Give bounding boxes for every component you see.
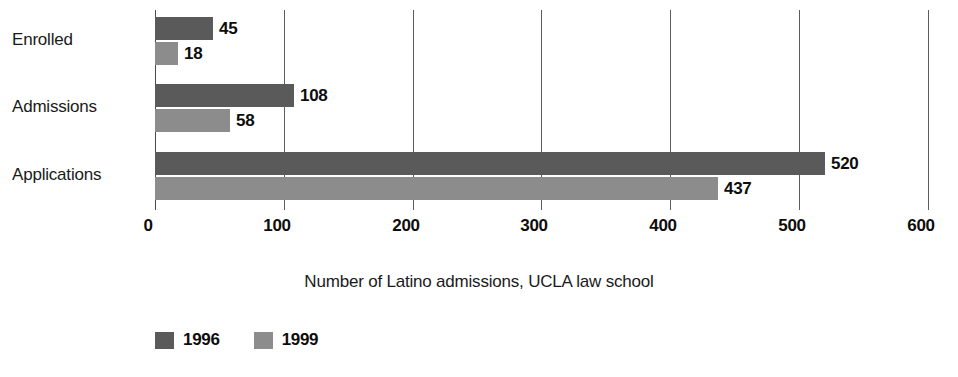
x-axis-title: Number of Latino admissions, UCLA law sc… — [0, 272, 958, 292]
bar-value-enrolled-1999: 18 — [184, 42, 202, 65]
bar-value-admissions-1996: 108 — [300, 84, 327, 107]
tick-label-200: 200 — [392, 216, 419, 236]
bar-chart: Enrolled Admissions Applications 45 18 1… — [0, 0, 958, 377]
category-label-admissions: Admissions — [12, 97, 152, 117]
legend-item-1996: 1996 — [155, 330, 220, 350]
bar-enrolled-1996 — [155, 17, 213, 40]
tick-label-0: 0 — [143, 216, 152, 236]
bar-admissions-1999 — [155, 109, 230, 132]
chart-legend: 1996 1999 — [155, 330, 318, 350]
bar-value-admissions-1999: 58 — [236, 109, 254, 132]
category-label-applications: Applications — [12, 165, 152, 185]
gridline-600 — [928, 10, 929, 210]
category-label-enrolled: Enrolled — [12, 30, 152, 50]
bar-value-applications-1999: 437 — [724, 177, 751, 200]
tick-label-100: 100 — [263, 216, 290, 236]
bar-admissions-1996 — [155, 84, 294, 107]
gridline-500 — [799, 10, 800, 210]
bar-applications-1996 — [155, 152, 825, 175]
legend-label-1999: 1999 — [282, 330, 319, 350]
legend-item-1999: 1999 — [254, 330, 319, 350]
bar-value-enrolled-1996: 45 — [219, 17, 237, 40]
legend-swatch-icon-1999 — [254, 332, 273, 349]
category-axis-labels: Enrolled Admissions Applications — [12, 10, 152, 210]
legend-swatch-icon-1996 — [155, 332, 174, 349]
tick-label-500: 500 — [778, 216, 805, 236]
legend-label-1996: 1996 — [183, 330, 220, 350]
tick-label-400: 400 — [649, 216, 676, 236]
bar-applications-1999 — [155, 177, 718, 200]
tick-label-600: 600 — [907, 216, 934, 236]
bar-enrolled-1999 — [155, 42, 178, 65]
plot-area: 45 18 108 58 520 437 — [155, 10, 928, 210]
tick-label-300: 300 — [520, 216, 547, 236]
bar-value-applications-1996: 520 — [831, 152, 858, 175]
